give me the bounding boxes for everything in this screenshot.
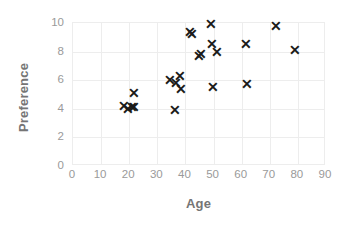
gridline-horizontal — [73, 80, 324, 81]
x-tick-label: 40 — [169, 168, 199, 180]
gridline-vertical — [270, 23, 271, 164]
x-tick-label: 80 — [282, 168, 312, 180]
data-point-marker: ✕ — [269, 20, 282, 33]
gridline-vertical — [101, 23, 102, 164]
data-point-marker: ✕ — [127, 101, 140, 114]
y-tick-label: 0 — [34, 158, 64, 172]
data-point-marker: ✕ — [240, 38, 253, 51]
gridline-horizontal — [73, 137, 324, 138]
x-tick-label: 20 — [113, 168, 143, 180]
gridline-vertical — [157, 23, 158, 164]
y-tick-label: 10 — [34, 15, 64, 29]
y-tick-label: 8 — [34, 44, 64, 58]
data-point-marker: ✕ — [175, 83, 188, 96]
gridline-horizontal — [73, 109, 324, 110]
data-point-marker: ✕ — [241, 78, 254, 91]
y-tick-label: 6 — [34, 72, 64, 86]
data-point-marker: ✕ — [128, 87, 141, 100]
y-axis-title: Preference — [12, 15, 34, 180]
x-tick-label: 60 — [226, 168, 256, 180]
data-point-marker: ✕ — [186, 28, 199, 41]
data-point-marker: ✕ — [168, 104, 181, 117]
data-point-marker: ✕ — [210, 46, 223, 59]
scatter-chart: Preference Age 0102030405060708090 02468… — [0, 0, 350, 230]
x-tick-label: 90 — [310, 168, 340, 180]
plot-area — [72, 22, 325, 165]
data-point-marker: ✕ — [205, 18, 218, 31]
y-tick-label: 4 — [34, 101, 64, 115]
x-tick-label: 70 — [254, 168, 284, 180]
x-tick-label: 10 — [85, 168, 115, 180]
y-tick-label: 2 — [34, 129, 64, 143]
data-point-marker: ✕ — [206, 81, 219, 94]
x-axis-title: Age — [72, 196, 325, 211]
x-tick-label: 30 — [141, 168, 171, 180]
data-point-marker: ✕ — [289, 44, 302, 57]
x-tick-label: 50 — [198, 168, 228, 180]
